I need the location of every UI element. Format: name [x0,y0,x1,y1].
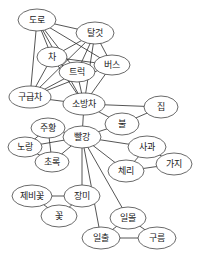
node-eggplant: 가지 [156,153,192,175]
node-label: 노랑 [17,141,33,152]
node-bus: 버스 [94,55,130,75]
node-label: 구름 [149,233,165,243]
node-label: 탈것 [87,28,103,38]
node-label: 초록 [44,157,60,167]
node-label: 빨강 [74,132,90,142]
node-label: 불 [118,119,126,129]
node-green: 초록 [35,152,69,172]
node-road: 도로 [18,9,56,31]
node-sunset: 일몰 [110,207,146,229]
node-label: 체리 [118,166,134,176]
node-label: 구급차 [18,91,43,102]
node-truck: 트럭 [59,62,95,82]
node-label: 제비꽃 [20,191,44,201]
node-orange: 주황 [31,118,65,138]
node-firetruck: 소방차 [63,93,105,115]
node-label: 가지 [166,159,182,169]
node-car: 차 [37,47,67,67]
node-label: 버스 [104,60,120,70]
node-label: 주황 [40,123,56,133]
node-red: 빨강 [63,126,101,148]
node-house: 집 [144,96,178,118]
node-sunrise: 일출 [82,227,120,249]
node-apple: 사과 [128,136,166,158]
node-label: 사과 [139,142,155,152]
node-label: 차 [48,51,57,62]
node-vehicle: 탈것 [76,22,114,44]
node-yellow: 노랑 [8,137,42,157]
node-label: 소방차 [72,98,97,109]
node-label: 트럭 [69,66,85,77]
node-label: 일출 [93,233,109,243]
node-cloud: 구름 [138,227,176,249]
semantic-network-diagram: 도로탈것차트럭버스구급차소방차집불주황빨강노랑사과초록체리가지제비꽃장미꽃일몰일… [0,0,199,257]
node-fire: 불 [105,113,139,135]
nodes-layer: 도로탈것차트럭버스구급차소방차집불주황빨강노랑사과초록체리가지제비꽃장미꽃일몰일… [8,9,192,249]
node-rose: 장미 [64,185,100,207]
node-label: 집 [157,101,165,112]
node-cherry: 체리 [108,160,144,182]
node-violet: 제비꽃 [12,185,52,207]
node-label: 도로 [29,15,45,25]
node-ambulance: 구급차 [9,86,51,108]
node-label: 일몰 [120,213,136,223]
node-flower: 꽃 [41,205,77,227]
node-label: 장미 [74,191,90,201]
node-label: 꽃 [55,211,63,221]
